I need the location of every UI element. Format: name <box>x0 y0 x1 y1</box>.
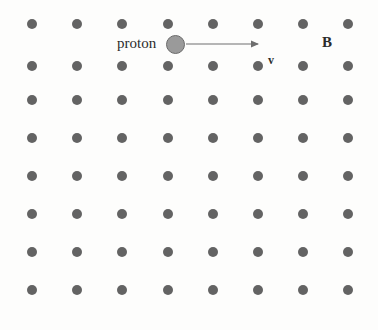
field-dot <box>298 133 308 143</box>
field-dot <box>208 133 218 143</box>
field-dot <box>343 247 353 257</box>
field-dot <box>27 133 37 143</box>
field-dot <box>208 247 218 257</box>
field-dot <box>208 61 218 71</box>
field-dot <box>72 247 82 257</box>
field-dot <box>163 247 173 257</box>
field-dot <box>253 285 263 295</box>
field-dot <box>117 171 127 181</box>
velocity-label: v <box>268 54 274 66</box>
field-dot <box>72 95 82 105</box>
magnetic-field-label: B <box>322 35 332 50</box>
field-dot <box>117 247 127 257</box>
field-dot <box>298 209 308 219</box>
field-dot <box>163 171 173 181</box>
proton-particle <box>166 35 185 54</box>
field-dot <box>163 19 173 29</box>
field-dot <box>117 209 127 219</box>
field-dot <box>208 209 218 219</box>
field-dot <box>208 171 218 181</box>
field-dot <box>253 209 263 219</box>
field-dot <box>117 19 127 29</box>
field-dot <box>253 133 263 143</box>
field-dot <box>27 19 37 29</box>
field-dot <box>27 209 37 219</box>
field-dot <box>253 171 263 181</box>
field-dot <box>163 133 173 143</box>
field-dot <box>27 171 37 181</box>
field-dot <box>343 19 353 29</box>
field-dot <box>72 19 82 29</box>
field-dot <box>27 95 37 105</box>
field-dot <box>343 285 353 295</box>
field-dot <box>117 61 127 71</box>
field-dot <box>298 95 308 105</box>
field-dot <box>72 209 82 219</box>
proton-label: proton <box>117 36 156 51</box>
field-dot <box>343 95 353 105</box>
field-dot <box>298 61 308 71</box>
field-dot <box>163 209 173 219</box>
field-dot <box>163 285 173 295</box>
field-dot <box>253 247 263 257</box>
field-dot <box>298 247 308 257</box>
field-dot <box>253 19 263 29</box>
field-dot <box>72 133 82 143</box>
field-dot <box>208 95 218 105</box>
field-dot <box>117 285 127 295</box>
field-dot <box>298 19 308 29</box>
field-dot <box>343 209 353 219</box>
field-dot <box>208 285 218 295</box>
field-dot <box>343 133 353 143</box>
field-dot <box>72 61 82 71</box>
field-dot <box>72 171 82 181</box>
field-dot <box>117 95 127 105</box>
field-dot <box>27 247 37 257</box>
field-dot <box>163 61 173 71</box>
field-dot <box>343 61 353 71</box>
field-dot <box>253 61 263 71</box>
field-dot <box>72 285 82 295</box>
field-dot <box>27 61 37 71</box>
field-dot <box>208 19 218 29</box>
field-dot <box>27 285 37 295</box>
magnetic-field-diagram: proton v B <box>0 0 378 330</box>
field-dot <box>298 285 308 295</box>
field-dot <box>343 171 353 181</box>
field-dot <box>253 95 263 105</box>
field-dot <box>117 133 127 143</box>
field-dot <box>298 171 308 181</box>
field-dot <box>163 95 173 105</box>
